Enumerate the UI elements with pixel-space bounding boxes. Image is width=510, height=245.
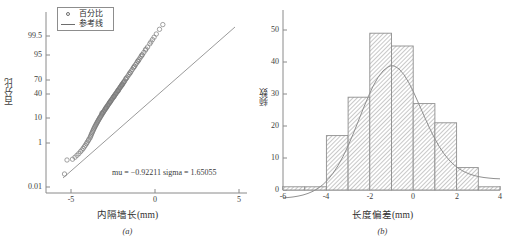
bar-bin-4	[348, 97, 370, 190]
fit-parameters-annotation: mu = −0.92211 sigma = 1.65055	[112, 168, 217, 177]
legend-label-reference-line: 参考线	[79, 19, 103, 29]
panel-b-ytick-40: 40	[255, 57, 279, 66]
bar-bin-3	[326, 136, 348, 190]
bar-bin-5	[370, 33, 392, 190]
panel-a-ytick-1: 1	[2, 138, 42, 147]
panel-a-x-axis-title: 内隔墙长(mm)	[0, 207, 255, 221]
bar-bin-9	[457, 168, 479, 190]
figure-container: 百分比 参考线 99.5 95 70 40 10 1 0.01 -5 0 5 m…	[0, 0, 510, 245]
panel-a-ytick-95: 95	[2, 50, 42, 59]
panel-b-y-ticks	[283, 30, 287, 190]
bar-bin-6	[392, 46, 414, 190]
panel-b-ytick-10: 10	[255, 153, 279, 162]
panel-b-ytick-20: 20	[255, 121, 279, 130]
circle-marker-icon	[60, 9, 76, 19]
histogram-bars	[283, 33, 500, 190]
bar-bin-10	[478, 187, 500, 190]
panel-b-y-axis-title: 频数	[256, 88, 269, 106]
panel-b-xtick-0: 0	[399, 192, 427, 201]
panel-a-x-ticks	[71, 189, 239, 193]
panel-a-xtick-neg5: -5	[56, 195, 86, 204]
panel-b-xtick-4: 4	[486, 192, 510, 201]
panel-b-xtick-neg6: -6	[269, 192, 297, 201]
scatter-points	[62, 22, 165, 176]
panel-b-xtick-neg4: -4	[312, 192, 340, 201]
panel-a-probability-plot: 百分比 参考线 99.5 95 70 40 10 1 0.01 -5 0 5 m…	[0, 0, 255, 245]
panel-b-x-axis-title: 长度偏差(mm)	[255, 207, 510, 221]
panel-b-caption: (b)	[255, 226, 510, 236]
panel-b-histogram: 50 40 30 20 10 0 -6 -4 -2 0 2 4 频数 长度偏差(…	[255, 0, 510, 245]
legend-row-reference-line[interactable]: 参考线	[60, 19, 111, 29]
panel-a-ytick-10: 10	[2, 113, 42, 122]
panel-b-xtick-neg2: -2	[356, 192, 384, 201]
panel-a-y-axis-title: 百分比	[1, 78, 14, 105]
reference-line	[63, 27, 235, 178]
line-marker-icon	[60, 19, 76, 29]
legend-label-percentage: 百分比	[79, 9, 103, 19]
panel-b-ytick-50: 50	[255, 25, 279, 34]
bar-bin-1	[283, 187, 305, 190]
panel-a-xtick-5: 5	[224, 195, 254, 204]
panel-a-xtick-0: 0	[140, 195, 170, 204]
panel-a-ytick-001: 0.01	[2, 182, 42, 191]
legend-row-percentage[interactable]: 百分比	[60, 9, 111, 19]
panel-a-legend[interactable]: 百分比 参考线	[57, 7, 114, 31]
panel-a-caption: (a)	[0, 226, 255, 236]
panel-a-y-ticks	[46, 36, 50, 187]
panel-a-ytick-995: 99.5	[2, 31, 42, 40]
panel-b-xtick-2: 2	[443, 192, 471, 201]
